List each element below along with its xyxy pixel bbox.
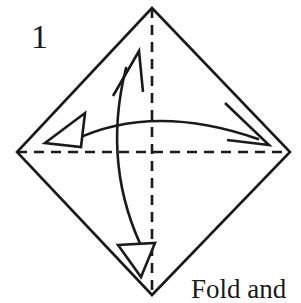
instruction-caption: Fold and [191,274,286,303]
origami-diagram-figure: 1 Fold and [0,0,301,303]
vertical-fold-arrow-head-icon [113,51,143,96]
vertical-fold-arrow-tail-head-icon [118,243,155,277]
horizontal-fold-arrow-tail-head-icon [45,113,85,147]
step-number-label: 1 [31,18,48,56]
horizontal-fold-arrow-arc [72,121,258,141]
vertical-fold-arrow-arc [117,68,146,256]
